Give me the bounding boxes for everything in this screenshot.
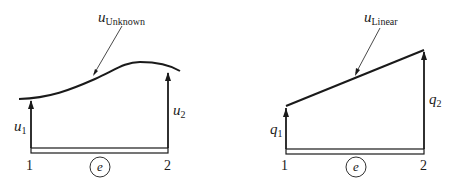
arrow-head-icon bbox=[165, 72, 171, 81]
pointer-arrow-icon bbox=[355, 68, 360, 76]
node-number-2: 2 bbox=[164, 158, 171, 173]
node-number-1: 1 bbox=[26, 158, 33, 173]
linear-approximation-line bbox=[286, 50, 424, 106]
label-pointer-line bbox=[356, 28, 380, 73]
curve-label: uUnknown bbox=[98, 9, 145, 27]
node-number-1: 1 bbox=[281, 158, 288, 173]
linear-approximation-diagram: uLinear q1 q2 1 2 e bbox=[270, 9, 442, 177]
element-bar bbox=[286, 149, 424, 154]
curve-label: uLinear bbox=[364, 9, 398, 27]
element-label: e bbox=[353, 159, 359, 174]
arrow-head-icon bbox=[421, 51, 427, 60]
pointer-arrow-icon bbox=[93, 69, 98, 76]
arrow-head-icon bbox=[283, 108, 289, 117]
nodal-value-label-2: u2 bbox=[173, 102, 186, 120]
unknown-solution-curve bbox=[19, 62, 180, 99]
element-interpolation-diagram: uUnknown u1 u2 1 2 e uLinear q1 bbox=[0, 0, 452, 188]
nodal-value-label-2: q2 bbox=[429, 91, 442, 109]
arrow-head-icon bbox=[28, 100, 34, 109]
element-label: e bbox=[97, 159, 103, 174]
node-number-2: 2 bbox=[420, 158, 427, 173]
element-bar bbox=[31, 148, 168, 153]
nodal-value-label-1: u1 bbox=[14, 118, 27, 136]
nodal-value-label-1: q1 bbox=[270, 121, 283, 139]
unknown-solution-diagram: uUnknown u1 u2 1 2 e bbox=[14, 9, 186, 177]
